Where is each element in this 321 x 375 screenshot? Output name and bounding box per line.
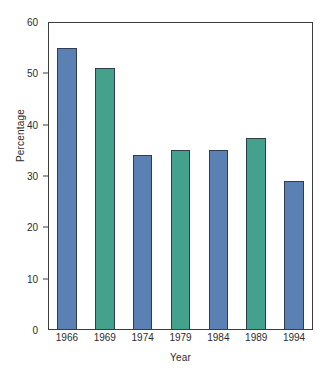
y-axis-tick-label: 0 [32, 325, 38, 336]
y-axis-tick-label: 20 [27, 222, 38, 233]
y-axis-tick-label: 30 [27, 171, 38, 182]
bar-chart-figure: Percentage 0102030405060 196619691974197… [0, 0, 321, 375]
bar-series-group [48, 22, 313, 330]
y-axis-tick-label: 60 [27, 17, 38, 28]
y-axis-tick-group: 0102030405060 [0, 0, 46, 375]
x-axis-tick-label: 1989 [245, 332, 267, 343]
bar-1966 [57, 48, 77, 330]
y-axis-tick-label: 50 [27, 68, 38, 79]
bar-1984 [209, 150, 229, 330]
bar-1994 [284, 181, 304, 330]
x-axis-tick-label: 1984 [207, 332, 229, 343]
x-axis-tick-label: 1966 [56, 332, 78, 343]
y-axis-tick-label: 40 [27, 119, 38, 130]
x-axis-title: Year [48, 352, 313, 363]
x-axis-tick-label: 1969 [94, 332, 116, 343]
bar-1989 [246, 138, 266, 331]
bar-1974 [133, 155, 153, 330]
bar-1969 [95, 68, 115, 330]
y-axis-tick-label: 10 [27, 273, 38, 284]
x-axis-tick-label: 1994 [283, 332, 305, 343]
x-axis-tick-label: 1974 [132, 332, 154, 343]
x-axis-tick-group: 1966196919741979198419891994 [48, 332, 313, 350]
x-axis-tick-label: 1979 [169, 332, 191, 343]
bar-1979 [171, 150, 191, 330]
